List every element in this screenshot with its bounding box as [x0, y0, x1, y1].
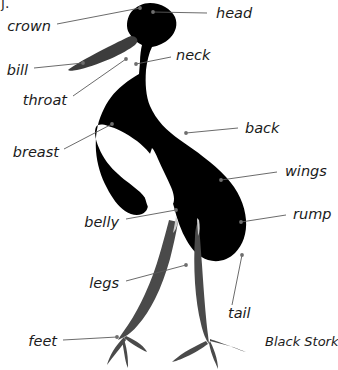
part-label-throat: throat	[23, 93, 67, 108]
bird-foot-right	[172, 339, 246, 369]
anchor-dot-rump	[239, 220, 243, 224]
leader-line-feet	[63, 337, 117, 340]
leader-line-wings	[221, 172, 277, 180]
anchor-dot-breast	[110, 122, 114, 126]
anchor-dot-feet	[115, 335, 119, 339]
part-label-wings: wings	[285, 164, 327, 179]
part-label-bill: bill	[7, 63, 28, 78]
part-label-crown: crown	[7, 19, 51, 34]
anchor-dot-head	[151, 10, 155, 14]
part-label-rump: rump	[293, 207, 331, 222]
leader-line-breast	[64, 124, 112, 149]
anchor-dot-neck	[134, 62, 138, 66]
anchor-dot-crown	[138, 6, 142, 10]
leader-line-back	[186, 128, 238, 133]
leader-line-rump	[241, 215, 286, 222]
part-label-tail: tail	[228, 306, 251, 321]
part-label-belly: belly	[84, 215, 119, 230]
anchor-dot-belly	[174, 208, 178, 212]
bird-bill	[68, 36, 137, 71]
anchor-dot-legs	[184, 263, 188, 267]
leader-line-tail	[232, 255, 242, 305]
bird-silhouette-group	[68, 3, 246, 369]
anchor-dot-bill	[81, 61, 85, 65]
part-label-head: head	[216, 6, 252, 21]
part-label-back: back	[245, 121, 279, 136]
anchor-dot-throat	[124, 57, 128, 61]
part-label-breast: breast	[13, 145, 59, 160]
black-stork-anatomy-diagram: j. headcrownneckbillthroatbackbreastwing…	[0, 0, 338, 370]
figure-caption: Black Stork	[265, 334, 338, 349]
bird-leg-left	[118, 220, 178, 340]
bird-illustration-layer	[0, 0, 338, 370]
anchor-dot-tail	[240, 253, 244, 257]
part-label-legs: legs	[89, 276, 119, 291]
anchor-dot-wings	[219, 178, 223, 182]
part-label-neck: neck	[176, 48, 210, 63]
bird-foot-left	[107, 336, 147, 368]
anchor-dot-back	[184, 131, 188, 135]
part-label-feet: feet	[28, 334, 57, 349]
